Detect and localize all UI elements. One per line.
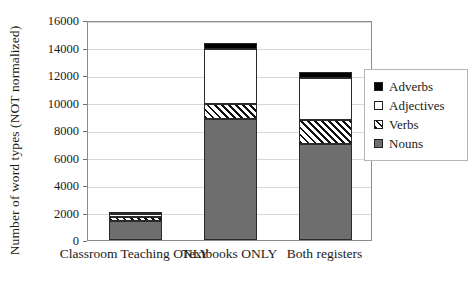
bar-group	[299, 20, 352, 240]
bar-segment-nouns	[299, 144, 352, 240]
y-tick-label: 10000	[0, 96, 83, 111]
y-tick-label: 12000	[0, 69, 83, 84]
legend-item-adjectives: Adjectives	[374, 96, 460, 115]
legend-label: Adverbs	[389, 79, 433, 95]
y-tick-label: 14000	[0, 41, 83, 56]
y-tick-label: 4000	[0, 179, 83, 194]
y-tick-label: 8000	[0, 124, 83, 139]
plot-area	[87, 21, 372, 241]
x-tick-label: Both registers	[287, 246, 362, 262]
bar-segment-verbs	[204, 104, 257, 119]
legend-label: Verbs	[389, 117, 419, 133]
legend-item-verbs: Verbs	[374, 115, 460, 134]
y-tick-mark	[83, 241, 87, 242]
bar-segment-verbs	[299, 120, 352, 143]
legend-label: Nouns	[389, 136, 423, 152]
y-tick-label: 6000	[0, 151, 83, 166]
legend-item-adverbs: Adverbs	[374, 77, 460, 96]
y-axis-tick-labels: 0200040006000800010000120001400016000	[0, 0, 83, 281]
bar-segment-adjectives	[299, 78, 352, 121]
bar-segment-adjectives	[109, 214, 162, 217]
bar-segment-adverbs	[299, 72, 352, 78]
bar-group	[109, 20, 162, 240]
y-tick-label: 2000	[0, 206, 83, 221]
chart-legend: AdverbsAdjectivesVerbsNouns	[364, 69, 468, 161]
legend-item-nouns: Nouns	[374, 134, 460, 153]
bar-group	[204, 20, 257, 240]
bar-segment-verbs	[109, 217, 162, 220]
stacked-bar-chart: Number of word types (NOT normalized) 02…	[0, 0, 474, 281]
y-tick-label: 16000	[0, 14, 83, 29]
bar-segment-nouns	[109, 221, 162, 240]
bar-segment-nouns	[204, 119, 257, 240]
bar-segment-adverbs	[109, 212, 162, 214]
legend-swatch-adjectives	[374, 101, 383, 110]
legend-swatch-nouns	[374, 139, 383, 148]
x-tick-label: Textbooks ONLY	[182, 246, 278, 262]
bar-segment-adjectives	[204, 49, 257, 104]
legend-swatch-verbs	[374, 120, 383, 129]
bar-segment-adverbs	[204, 43, 257, 49]
legend-swatch-adverbs	[374, 82, 383, 91]
legend-label: Adjectives	[389, 98, 445, 114]
